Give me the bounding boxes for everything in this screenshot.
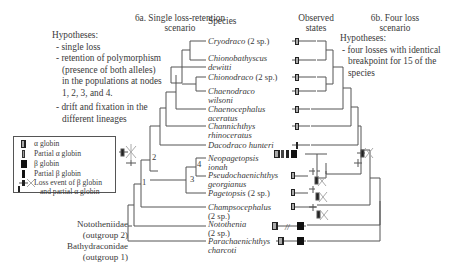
- branch: [307, 201, 380, 241]
- branch: [317, 154, 326, 178]
- branch: [190, 41, 206, 60]
- svg-text://: //: [284, 223, 290, 232]
- observed-state-connectors: [276, 41, 317, 241]
- branch: [128, 205, 206, 241]
- state-partial-alpha: [296, 142, 298, 149]
- legend: α globin Partial α globin β globin Parti…: [13, 136, 116, 193]
- legend-label: Loss event of β globin and partial α glo…: [34, 178, 102, 196]
- branch: [150, 126, 160, 171]
- state-neopagetopsis: [274, 150, 297, 158]
- branch: [134, 184, 206, 226]
- state-alpha-partial: [291, 203, 295, 210]
- legend-label: α globin: [34, 139, 59, 149]
- branch: [196, 77, 206, 91]
- state-alpha-partial: [295, 38, 299, 45]
- branch: [326, 163, 361, 174]
- loss-event-b-3: [309, 186, 327, 202]
- state-alpha-partial: [295, 74, 299, 81]
- tree-branches-left: [128, 41, 206, 241]
- phylogeny-diagram: //: [0, 0, 453, 270]
- loss-event-node1: [119, 144, 136, 166]
- legend-label-line1: Loss event of β globin: [34, 178, 102, 187]
- state-alpha-partial: [291, 189, 295, 196]
- state-alpha-partial: [295, 88, 299, 95]
- loss-event-icon: [16, 179, 36, 193]
- branch: [196, 158, 206, 176]
- state-alpha-partial: [295, 57, 299, 64]
- state-alpha-partial: [295, 106, 299, 113]
- legend-label: Partial α globin: [34, 149, 81, 159]
- branch: [176, 75, 206, 109]
- legend-label: β globin: [34, 159, 59, 169]
- branch: [326, 50, 333, 84]
- legend-label-line2: and partial α globin: [34, 187, 102, 196]
- branch: [311, 67, 343, 109]
- loss-event-b-4: [309, 204, 328, 220]
- branch: [317, 77, 326, 91]
- state-notothenia: //: [272, 222, 304, 232]
- branch: [311, 88, 351, 126]
- state-alpha-partial: [291, 172, 295, 179]
- state-alpha-partial: [295, 123, 299, 130]
- observed-states: //: [272, 38, 304, 245]
- branch: [317, 41, 326, 60]
